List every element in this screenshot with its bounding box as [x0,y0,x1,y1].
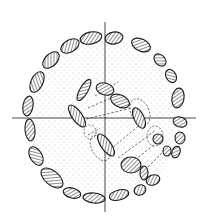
outer-stone [175,132,185,144]
inner-stone [121,157,141,173]
plan-drawing [0,0,205,221]
inner-stone [153,134,163,144]
stone-circle-plan [0,0,205,221]
inner-stone [163,146,171,156]
